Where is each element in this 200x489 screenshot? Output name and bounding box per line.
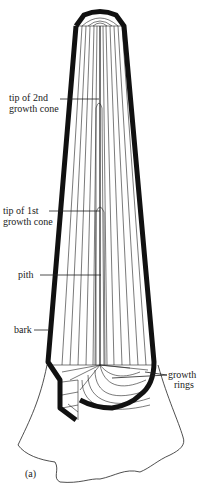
label-growth-rings-line2: rings [174,379,194,390]
root-flare-outline [18,365,184,482]
bark-outline [76,12,154,409]
leader-growth-rings-1 [112,375,167,378]
label-tip-1st-growth-cone-line1: tip of 1st [3,205,39,216]
label-tip-2nd-growth-cone-line1: tip of 2nd [9,92,48,103]
label-pith: pith [18,269,34,280]
panel-label: (a) [25,468,36,480]
leader-growth-rings-2 [145,372,167,375]
tree-trunk-diagram: tip of 2nd growth cone tip of 1st growth… [0,0,200,489]
label-bark: bark [14,324,32,335]
label-tip-1st-growth-cone-line2: growth cone [3,216,53,227]
label-tip-2nd-growth-cone-line2: growth cone [9,103,59,114]
